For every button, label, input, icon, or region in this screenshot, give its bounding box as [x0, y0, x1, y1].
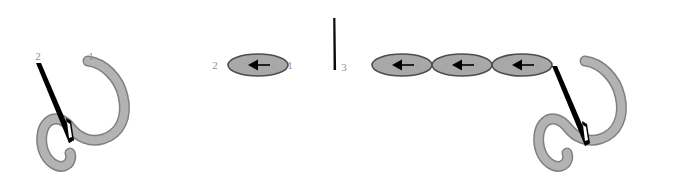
left-panel: 2 1 — [35, 50, 124, 166]
ellipse-link-1 — [372, 54, 432, 76]
mid-label-1: 1 — [287, 59, 293, 71]
mid-label-3: 3 — [341, 61, 347, 73]
figure-canvas: 2 1 2 1 3 — [0, 0, 691, 194]
diagram-svg: 2 1 2 1 3 — [0, 0, 691, 194]
ellipse-link-2 — [432, 54, 492, 76]
left-label-2: 2 — [35, 50, 41, 62]
ellipse-link-3 — [492, 54, 552, 76]
right-ellipse-chain — [372, 54, 552, 76]
mid-label-2: 2 — [212, 59, 218, 71]
middle-ellipse-link — [228, 54, 288, 76]
right-thread — [539, 61, 622, 166]
middle-panel: 2 1 3 — [212, 18, 347, 76]
right-panel — [372, 54, 621, 166]
left-thread — [42, 61, 125, 166]
left-label-1: 1 — [88, 50, 94, 62]
vertical-needle — [333, 18, 336, 70]
